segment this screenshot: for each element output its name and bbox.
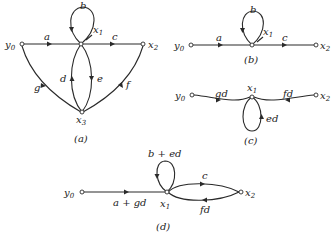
- arrow-icon: [70, 76, 75, 81]
- arrow-icon: [259, 114, 264, 119]
- label-x1: x1: [93, 24, 103, 37]
- edge-c-x1-x2: [168, 184, 239, 192]
- gain-a: a: [44, 31, 50, 42]
- gain-gd: gd: [215, 88, 228, 99]
- caption-b: (b): [244, 54, 258, 65]
- gain-e: e: [97, 73, 103, 84]
- arrow-icon: [69, 27, 74, 32]
- arrow-icon: [240, 28, 245, 33]
- arrow-icon: [110, 42, 115, 47]
- edge-fd-x2-x1: [168, 192, 239, 200]
- node-x1: [165, 190, 169, 194]
- node-y0: [80, 190, 84, 194]
- node-y0: [190, 93, 194, 97]
- gain-c: c: [202, 170, 208, 181]
- arrow-icon: [202, 198, 207, 203]
- node-y0: [189, 43, 193, 47]
- arrow-icon: [218, 43, 223, 48]
- node-x1: [79, 42, 83, 46]
- label-y0: y0: [4, 39, 16, 52]
- arrow-icon: [282, 43, 287, 48]
- node-x2: [141, 42, 145, 46]
- gain-b-plus-ed: b + ed: [148, 148, 181, 159]
- gain-fd: fd: [282, 88, 293, 99]
- label-x1: x1: [247, 82, 257, 95]
- node-x2: [314, 93, 318, 97]
- gain-c: c: [282, 32, 288, 43]
- gain-g: g: [34, 82, 40, 93]
- panel-d: y0 x1 x2 a + gd b + ed c fd (d): [63, 148, 256, 232]
- gain-b: b: [80, 0, 86, 11]
- label-x3: x3: [76, 114, 87, 127]
- panel-b: y0 x1 x2 a b c (b): [173, 4, 331, 65]
- arrow-icon: [89, 76, 94, 81]
- caption-d: (d): [156, 221, 170, 232]
- gain-fd: fd: [199, 204, 210, 215]
- arrow-icon: [47, 42, 52, 47]
- signal-flow-graph-figure: y0 x1 x2 x3 a b c d e f g (a) y0 x1 x2 a…: [0, 0, 336, 237]
- gain-b: b: [250, 4, 256, 15]
- edge-bed-self-loop: [157, 161, 175, 192]
- node-x1: [250, 95, 254, 99]
- gain-c: c: [112, 31, 118, 42]
- arrow-icon: [200, 182, 205, 187]
- label-x2: x2: [320, 90, 331, 103]
- gain-f: f: [125, 79, 132, 90]
- label-x2: x2: [148, 39, 159, 52]
- label-x2: x2: [320, 40, 331, 53]
- label-x2: x2: [245, 187, 256, 200]
- node-y0: [20, 42, 24, 46]
- label-y0: y0: [173, 40, 185, 53]
- node-x2: [314, 43, 318, 47]
- gain-d: d: [60, 73, 66, 84]
- edge-ed-self-loop: [243, 97, 261, 131]
- gain-ed: ed: [266, 113, 278, 124]
- arrow-icon: [124, 190, 129, 195]
- arrow-icon: [155, 174, 160, 179]
- gain-a: a: [216, 32, 222, 43]
- caption-c: (c): [244, 135, 258, 146]
- node-x2: [239, 190, 243, 194]
- label-x1: x1: [160, 198, 170, 211]
- label-y0: y0: [174, 90, 186, 103]
- caption-a: (a): [74, 133, 88, 144]
- panel-c: y0 x1 x2 gd fd ed (c): [174, 82, 331, 146]
- panel-a: y0 x1 x2 x3 a b c d e f g (a): [4, 0, 159, 144]
- gain-a-plus-gd: a + gd: [113, 197, 147, 208]
- edge-b-self-loop: [71, 7, 94, 44]
- node-x1: [250, 43, 254, 47]
- label-x1: x1: [263, 26, 273, 39]
- label-y0: y0: [63, 187, 75, 200]
